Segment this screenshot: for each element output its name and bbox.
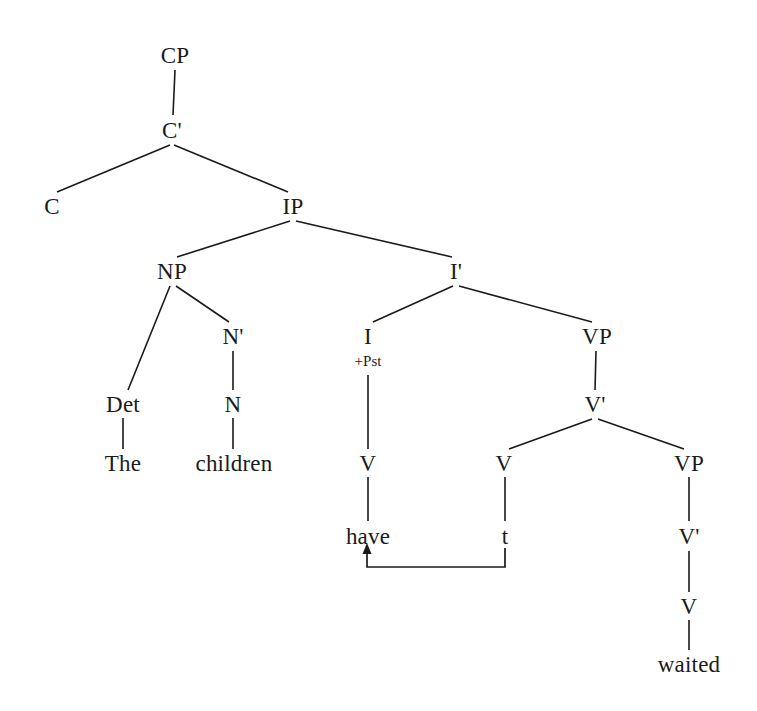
syntax-tree-diagram: CPC'CIPNPI'N'I+PstVPDetNV'ThechildrenVVV… xyxy=(0,0,757,711)
node-v_trace: V xyxy=(496,452,513,475)
node-vp2: VP xyxy=(674,452,704,475)
branch-cbar-to-c xyxy=(57,145,170,192)
head-movement-arrow xyxy=(367,548,505,567)
branch-cp-to-cbar xyxy=(173,70,175,115)
branch-ip-to-np xyxy=(177,221,290,257)
branch-ip-to-ibar xyxy=(296,221,452,257)
branch-vbar1-to-vp2 xyxy=(598,419,684,449)
node-waited: waited xyxy=(658,653,721,676)
branch-vp1-to-vbar1 xyxy=(595,351,596,390)
node-vp1: VP xyxy=(582,325,612,348)
node-det: Det xyxy=(106,393,140,416)
node-ip: IP xyxy=(283,195,304,218)
node-i_feat: +Pst xyxy=(354,354,381,369)
branch-np-to-det xyxy=(128,286,170,390)
node-c: C xyxy=(44,195,60,218)
node-ibar: I' xyxy=(450,260,462,283)
node-nbar: N' xyxy=(222,325,243,348)
node-np: NP xyxy=(157,260,187,283)
node-t: t xyxy=(502,525,509,548)
branch-vbar1-to-v_trace xyxy=(509,419,592,449)
branch-ibar-to-vp1 xyxy=(459,286,592,322)
node-n: N xyxy=(225,393,242,416)
node-have: have xyxy=(346,525,390,548)
node-cp: CP xyxy=(161,44,190,67)
node-children: children xyxy=(196,452,273,475)
node-v_final: V xyxy=(681,595,698,618)
node-v_i: V xyxy=(360,452,377,475)
node-i: I xyxy=(364,325,372,348)
node-cbar: C' xyxy=(162,119,182,142)
branch-ibar-to-i xyxy=(373,286,453,322)
branch-np-to-nbar xyxy=(176,286,229,322)
node-the: The xyxy=(105,452,141,475)
node-vbar1: V' xyxy=(584,393,605,416)
node-vbar2: V' xyxy=(678,525,699,548)
branch-cbar-to-ip xyxy=(174,145,288,192)
